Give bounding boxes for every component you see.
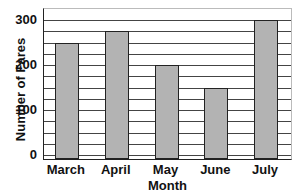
y-tick-label: 100 <box>15 102 37 117</box>
x-tick-label: May <box>153 162 178 177</box>
bar-june <box>204 88 228 160</box>
plot-area <box>43 8 292 160</box>
x-tick-label: June <box>200 162 230 177</box>
y-tick-label: 200 <box>15 57 37 72</box>
x-tick-label: March <box>47 162 85 177</box>
bar-may <box>155 65 179 159</box>
y-tick-label: 0 <box>30 147 37 162</box>
bar-july <box>254 20 278 159</box>
y-tick-label: 300 <box>15 12 37 27</box>
bar-april <box>105 31 129 159</box>
x-axis-label: Month <box>43 178 292 193</box>
y-axis-label: Number of Fares <box>13 30 28 150</box>
bar-march <box>55 43 79 160</box>
x-tick-label: July <box>252 162 278 177</box>
x-tick-label: April <box>101 162 131 177</box>
